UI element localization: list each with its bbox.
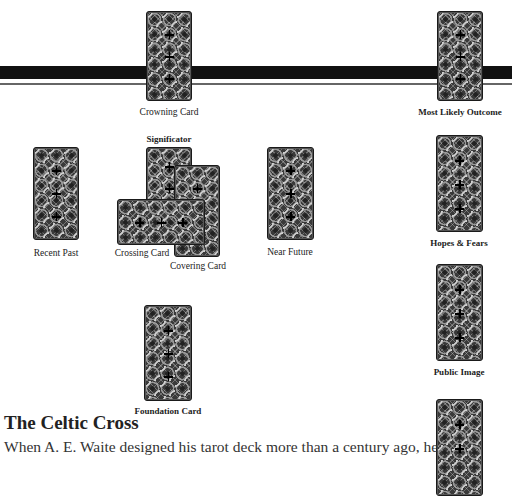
label-foundation: Foundation Card: [128, 406, 208, 416]
card-self: [436, 399, 483, 496]
decorative-bar-thin: [0, 83, 512, 85]
label-significator: Significator: [134, 134, 204, 144]
card-most-likely-outcome: [437, 11, 483, 101]
label-crossing: Crossing Card: [107, 248, 177, 258]
card-hopes-fears: [436, 135, 483, 232]
card-crossing: [117, 199, 205, 245]
label-near-future: Near Future: [255, 247, 325, 257]
label-crowning: Crowning Card: [134, 107, 204, 117]
article-title: The Celtic Cross: [4, 412, 139, 434]
card-foundation: [144, 305, 192, 401]
article-body: When A. E. Waite designed his tarot deck…: [4, 438, 438, 456]
card-recent-past: [33, 147, 79, 240]
card-near-future: [267, 147, 314, 240]
label-most-likely-outcome: Most Likely Outcome: [412, 107, 508, 117]
card-public-image: [436, 264, 483, 361]
label-public-image: Public Image: [419, 367, 499, 377]
label-covering: Covering Card: [163, 261, 233, 271]
label-hopes-fears: Hopes & Fears: [419, 238, 499, 248]
card-crowning: [146, 11, 192, 101]
decorative-bar-thick: [0, 66, 512, 79]
label-recent-past: Recent Past: [21, 248, 91, 258]
